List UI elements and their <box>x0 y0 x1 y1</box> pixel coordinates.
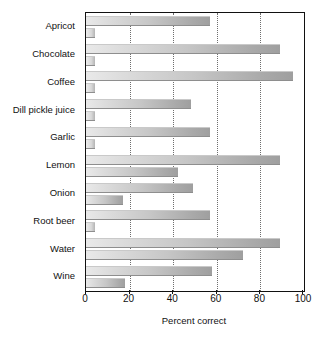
bar-group <box>86 208 304 236</box>
axis-tick-label: 80 <box>254 294 265 304</box>
bar-slot <box>86 222 304 232</box>
bar-group <box>86 180 304 208</box>
bar-slot <box>86 250 304 260</box>
bar <box>86 99 191 109</box>
category-label: Onion <box>0 179 80 207</box>
bar-slot <box>86 238 304 248</box>
category-label: Water <box>0 234 80 262</box>
bar <box>86 139 95 149</box>
plot-area <box>85 12 305 292</box>
axis-tick-label: 40 <box>167 294 178 304</box>
bar <box>86 278 125 288</box>
bar-slot <box>86 195 304 205</box>
bar-slot <box>86 99 304 109</box>
bar <box>86 16 210 26</box>
category-label: Garlic <box>0 123 80 151</box>
bar-group <box>86 124 304 152</box>
bar <box>86 71 293 81</box>
bar-slot <box>86 278 304 288</box>
x-axis-title: Percent correct <box>85 315 303 326</box>
bar-slot <box>86 71 304 81</box>
plot-inner <box>86 13 304 291</box>
bar-group <box>86 152 304 180</box>
bar-slot <box>86 155 304 165</box>
bar-group <box>86 41 304 69</box>
axis-tick-label: 60 <box>210 294 221 304</box>
axis-tick-label: 100 <box>295 294 312 304</box>
category-label: Apricot <box>0 12 80 40</box>
bar-slot <box>86 139 304 149</box>
bar <box>86 238 280 248</box>
bar-slot <box>86 56 304 66</box>
bar <box>86 266 212 276</box>
bar-slot <box>86 16 304 26</box>
category-label: Wine <box>0 262 80 290</box>
bar-slot <box>86 28 304 38</box>
bar-slot <box>86 83 304 93</box>
category-label: Dill pickle juice <box>0 95 80 123</box>
bar-slot <box>86 111 304 121</box>
bar <box>86 127 210 137</box>
bar-slot <box>86 127 304 137</box>
category-label: Coffee <box>0 68 80 96</box>
bar-slot <box>86 167 304 177</box>
axis-tick-label: 0 <box>82 294 88 304</box>
bar-slot <box>86 183 304 193</box>
bar <box>86 56 95 66</box>
category-label: Lemon <box>0 151 80 179</box>
bar <box>86 222 95 232</box>
bar <box>86 210 210 220</box>
bar <box>86 44 280 54</box>
bar <box>86 28 95 38</box>
bar-slot <box>86 44 304 54</box>
bar-group <box>86 263 304 291</box>
bar <box>86 250 243 260</box>
bar <box>86 195 123 205</box>
x-axis-tick-labels: 020406080100 <box>85 294 303 310</box>
bar-group <box>86 96 304 124</box>
bar-groups <box>86 13 304 291</box>
bar <box>86 167 178 177</box>
bar-group <box>86 69 304 97</box>
bar <box>86 83 95 93</box>
bar <box>86 155 280 165</box>
bar <box>86 111 95 121</box>
axis-tick-label: 20 <box>123 294 134 304</box>
bar <box>86 183 193 193</box>
bar-slot <box>86 266 304 276</box>
bar-group <box>86 235 304 263</box>
category-label: Root beer <box>0 207 80 235</box>
bar-group <box>86 13 304 41</box>
category-label: Chocolate <box>0 40 80 68</box>
bar-chart-figure: ApricotChocolateCoffeeDill pickle juiceG… <box>0 0 319 338</box>
bar-slot <box>86 210 304 220</box>
category-axis-labels: ApricotChocolateCoffeeDill pickle juiceG… <box>0 12 80 290</box>
